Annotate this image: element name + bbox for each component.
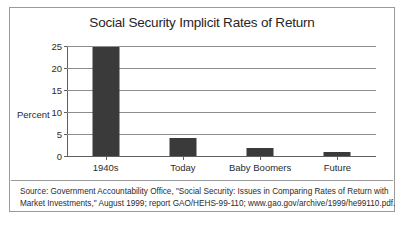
y-axis-tick-label: 15: [51, 85, 62, 96]
bar-slot: Today: [144, 46, 221, 156]
bar[interactable]: [169, 138, 196, 156]
chart-figure-frame: Social Security Implicit Rates of Return…: [9, 7, 395, 212]
x-axis-tick-mark: [260, 156, 261, 160]
bar-series: 1940sTodayBaby BoomersFuture: [67, 46, 376, 156]
y-axis-tick-label: 0: [57, 151, 62, 162]
y-axis-tick-mark: [64, 156, 67, 157]
x-axis-tick-mark: [106, 156, 107, 160]
x-axis-tick-label: 1940s: [93, 162, 119, 173]
source-note: Source: Government Accountability Office…: [20, 186, 384, 209]
x-axis-tick-mark: [337, 156, 338, 160]
gridline: [67, 156, 376, 157]
footer-divider: [11, 180, 393, 181]
y-axis-label: Percent: [17, 109, 50, 120]
bar[interactable]: [92, 47, 119, 156]
x-axis-tick-label: Future: [324, 162, 351, 173]
y-axis-tick-label: 25: [51, 41, 62, 52]
x-axis-tick-label: Today: [170, 162, 195, 173]
y-axis-tick-label: 20: [51, 63, 62, 74]
y-axis-tick-label: 5: [57, 129, 62, 140]
source-note-line-1: Source: Government Accountability Office…: [20, 186, 384, 198]
bar-slot: Future: [299, 46, 376, 156]
bar-slot: 1940s: [67, 46, 144, 156]
source-note-line-2: Market Investments," August 1999; report…: [20, 198, 384, 210]
y-axis-tick-label: 10: [51, 107, 62, 118]
plot-area: 0510152025 1940sTodayBaby BoomersFuture: [67, 46, 376, 156]
bar[interactable]: [247, 148, 274, 156]
bar-slot: Baby Boomers: [222, 46, 299, 156]
x-axis-tick-label: Baby Boomers: [229, 162, 291, 173]
chart-title: Social Security Implicit Rates of Return: [10, 15, 394, 30]
x-axis-tick-mark: [183, 156, 184, 160]
